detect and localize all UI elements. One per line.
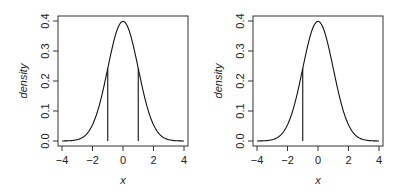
plot-frame (58, 16, 188, 146)
y-axis-label: density (17, 62, 29, 98)
density-curve (257, 21, 379, 141)
y-tick-label: 0.0 (234, 133, 246, 148)
y-tick-label: 0.2 (234, 73, 246, 88)
x-tick-label: 2 (150, 154, 156, 166)
plot-frame (253, 16, 383, 146)
y-axis-label: density (212, 62, 224, 98)
y-tick-label: 0.4 (234, 13, 246, 28)
x-tick-label: 4 (376, 154, 382, 166)
density-plots: −4−20240.00.10.20.30.4xdensity−4−20240.0… (0, 0, 396, 193)
y-tick-label: 0.0 (39, 133, 51, 148)
x-tick-label: 2 (345, 154, 351, 166)
y-tick-label: 0.3 (39, 43, 51, 58)
x-axis-label: x (119, 174, 126, 186)
y-tick-label: 0.1 (39, 103, 51, 118)
x-tick-label: −2 (86, 154, 99, 166)
x-tick-label: −2 (281, 154, 294, 166)
y-tick-label: 0.1 (234, 103, 246, 118)
panel-2: −4−20240.00.10.20.30.4xdensity (212, 13, 383, 186)
x-tick-label: −4 (56, 154, 69, 166)
y-tick-label: 0.3 (234, 43, 246, 58)
x-tick-label: −4 (251, 154, 264, 166)
panel-1: −4−20240.00.10.20.30.4xdensity (17, 13, 188, 186)
y-tick-label: 0.2 (39, 73, 51, 88)
density-curve (62, 21, 184, 141)
x-tick-label: 0 (120, 154, 126, 166)
x-tick-label: 4 (181, 154, 187, 166)
y-tick-label: 0.4 (39, 13, 51, 28)
x-axis-label: x (314, 174, 321, 186)
x-tick-label: 0 (315, 154, 321, 166)
